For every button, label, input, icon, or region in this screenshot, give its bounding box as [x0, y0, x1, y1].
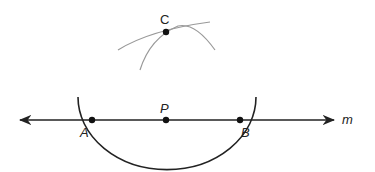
construction-arc-from-b [140, 26, 215, 71]
label-a: A [79, 125, 89, 140]
label-c: C [160, 12, 169, 27]
label-b: B [241, 125, 250, 140]
point-p [163, 117, 169, 123]
label-m: m [342, 112, 353, 127]
label-p: P [160, 101, 169, 116]
geometry-diagram: A P B C m [0, 0, 375, 172]
point-a [89, 117, 95, 123]
point-c [163, 29, 169, 35]
point-b [237, 117, 243, 123]
